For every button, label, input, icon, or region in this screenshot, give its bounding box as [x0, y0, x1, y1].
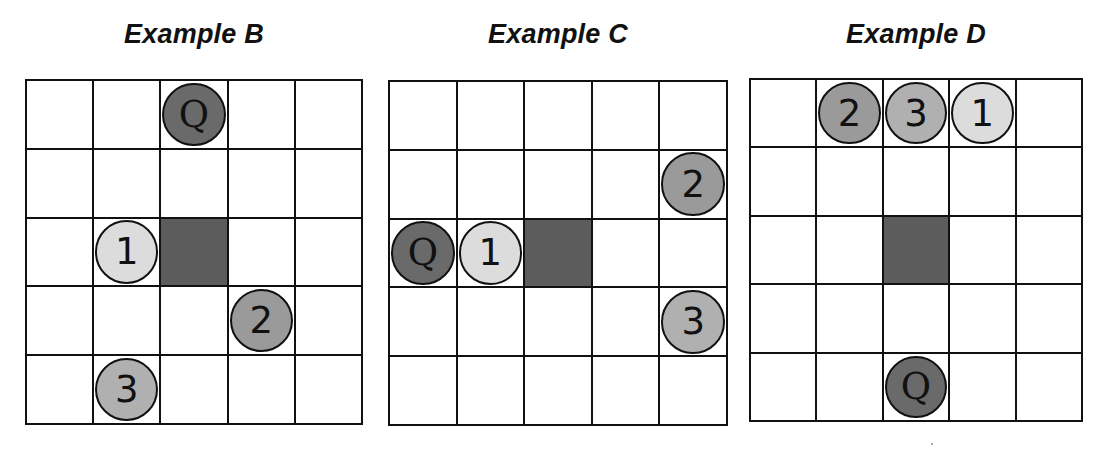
grid-board: Q123	[388, 80, 728, 426]
query-token: Q	[391, 221, 455, 285]
rank-token-3: 3	[661, 290, 725, 354]
blocked-cell	[161, 219, 226, 286]
rank-token-1: 1	[459, 221, 523, 285]
grid-line-horizontal	[27, 354, 361, 356]
rank-token-2: 2	[230, 289, 293, 352]
grid-line-vertical	[92, 81, 94, 423]
grid-line-vertical	[948, 80, 950, 420]
panel-title: Example C	[388, 19, 728, 50]
panel-example-d: Example D 231Q	[749, 0, 1083, 449]
grid-line-horizontal	[751, 146, 1081, 148]
panel-title: Example D	[749, 19, 1083, 50]
rank-token-3: 3	[885, 82, 947, 144]
rank-token-1: 1	[951, 82, 1013, 144]
grid-line-horizontal	[27, 148, 361, 150]
grid-line-horizontal	[751, 352, 1081, 354]
scan-speck	[931, 443, 933, 445]
query-token: Q	[162, 83, 225, 146]
grid-line-horizontal	[390, 355, 726, 357]
panel-example-b: Example B Q123	[25, 0, 363, 449]
grid-line-horizontal	[27, 285, 361, 287]
rank-token-3: 3	[95, 358, 158, 421]
grid-line-vertical	[294, 81, 296, 423]
blocked-cell	[525, 220, 591, 287]
grid-line-vertical	[456, 82, 458, 424]
query-token: Q	[885, 356, 947, 418]
grid-line-vertical	[227, 81, 229, 423]
grid-line-horizontal	[751, 283, 1081, 285]
grid-line-vertical	[1015, 80, 1017, 420]
grid-line-horizontal	[390, 149, 726, 151]
blocked-cell	[884, 217, 948, 283]
grid-board: 231Q	[749, 78, 1083, 422]
rank-token-2: 2	[818, 82, 880, 144]
grid-board: Q123	[25, 79, 363, 425]
rank-token-2: 2	[661, 152, 725, 216]
grid-line-vertical	[815, 80, 817, 420]
grid-line-horizontal	[390, 286, 726, 288]
panel-example-c: Example C Q123	[388, 0, 728, 449]
grid-line-vertical	[658, 82, 660, 424]
panel-title: Example B	[25, 19, 363, 50]
grid-line-vertical	[591, 82, 593, 424]
rank-token-1: 1	[95, 220, 158, 283]
